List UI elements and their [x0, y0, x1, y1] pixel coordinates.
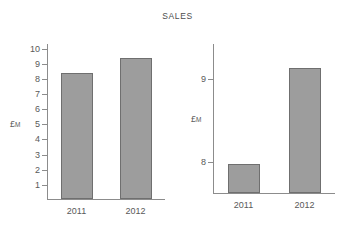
- chart-panel-truncated-scale: £M 89 20112012: [180, 0, 355, 228]
- y-tick-mark: [42, 109, 48, 110]
- y-tick-label: 9: [201, 74, 206, 84]
- y-tick-label: 5: [35, 119, 40, 129]
- plot-area-truncated-scale: 89 20112012: [213, 44, 335, 194]
- y-tick-mark: [208, 162, 214, 163]
- y-tick-label: 1: [35, 180, 40, 190]
- y-tick-mark: [42, 170, 48, 171]
- x-category-label: 2011: [67, 206, 86, 216]
- y-tick-mark: [42, 185, 48, 186]
- y-tick-mark: [42, 139, 48, 140]
- y-tick-label: 7: [35, 89, 40, 99]
- y-tick-label: 10: [30, 44, 40, 54]
- y-tick-label: 3: [35, 150, 40, 160]
- x-axis-line-right: [213, 193, 335, 194]
- y-axis-unit-label-left: £M: [10, 119, 21, 129]
- y-tick-mark: [42, 155, 48, 156]
- y-tick-mark: [42, 79, 48, 80]
- sales-figure: SALES £M 12345678910 20112012 £M 89 2011…: [0, 0, 355, 228]
- y-axis-line-left: [47, 44, 48, 200]
- chart-panel-full-scale: £M 12345678910 20112012: [0, 0, 180, 228]
- bar: [61, 73, 93, 199]
- plot-area-full-scale: 12345678910 20112012: [47, 44, 165, 200]
- y-tick-label: 2: [35, 165, 40, 175]
- bar: [228, 164, 260, 193]
- x-category-label: 2012: [125, 206, 145, 216]
- y-tick-mark: [42, 124, 48, 125]
- y-tick-label: 8: [201, 157, 206, 167]
- y-axis-unit-label-right: £M: [191, 114, 202, 124]
- y-tick-mark: [42, 94, 48, 95]
- bar: [289, 68, 321, 193]
- y-tick-label: 9: [35, 59, 40, 69]
- y-tick-label: 4: [35, 134, 40, 144]
- x-axis-line-left: [47, 199, 165, 200]
- x-category-label: 2012: [294, 200, 314, 210]
- y-tick-label: 6: [35, 104, 40, 114]
- y-tick-mark: [42, 49, 48, 50]
- unit-suffix: M: [15, 121, 21, 128]
- y-tick-mark: [208, 79, 214, 80]
- x-category-label: 2011: [234, 200, 253, 210]
- bar: [120, 58, 152, 199]
- y-tick-mark: [42, 64, 48, 65]
- y-tick-label: 8: [35, 74, 40, 84]
- unit-suffix: M: [196, 116, 202, 123]
- y-axis-line-right: [213, 44, 214, 194]
